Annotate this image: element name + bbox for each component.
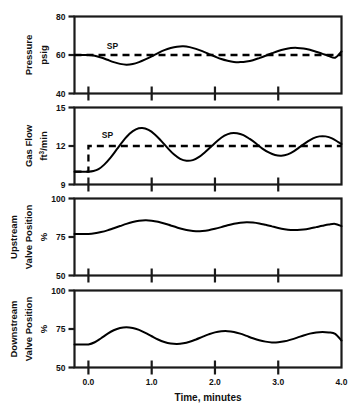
chart-figure-root: 406080SP91215SP50751005075100Pressurepsi… [0, 0, 357, 405]
ytick-label-pressure-60: 60 [56, 50, 66, 60]
ytick-label-pressure-40: 40 [56, 89, 66, 99]
xtick-label-1: 1.0 [146, 377, 158, 387]
ylabel-upstream-line2: Valve Position [23, 205, 34, 270]
xtick-label-2: 2.0 [209, 377, 221, 387]
ylabel-downstream-line2: Valve Position [23, 297, 34, 362]
ytick-label-upstream-75: 75 [56, 232, 66, 242]
ylabel-pressure-line1: Pressure [23, 35, 34, 76]
ytick-label-upstream-100: 100 [51, 194, 65, 204]
data-curve-upstream [75, 220, 342, 234]
ylabel-downstream-line3: % [38, 324, 49, 333]
ylabel-gasflow-line2: ft3/min [38, 131, 49, 161]
panel-gasflow: 91215SP [56, 103, 341, 192]
ylabel-pressure-line2: psig [38, 45, 49, 65]
ylabel-gasflow-line1: Gas Flow [23, 124, 34, 167]
ytick-label-gasflow-15: 15 [56, 103, 66, 113]
ytick-label-downstream-75: 75 [56, 324, 66, 334]
panel-frame-upstream [75, 199, 342, 276]
xtick-label-0: 0.0 [83, 377, 95, 387]
sp-annotation-gasflow: SP [102, 130, 114, 140]
ylabel-upstream-line3: % [38, 232, 49, 241]
panel-pressure: 406080SP [56, 12, 341, 101]
ylabel-downstream-line1: Downstream [8, 300, 19, 357]
ytick-label-downstream-50: 50 [56, 363, 66, 373]
xtick-label-4: 4.0 [336, 377, 348, 387]
ylabel-upstream-line1: Upstream [8, 215, 19, 259]
ytick-label-upstream-50: 50 [56, 271, 66, 281]
ytick-label-gasflow-12: 12 [56, 141, 66, 151]
xaxis-title: Time, minutes [174, 392, 241, 403]
data-curve-gasflow [75, 128, 342, 172]
ytick-label-pressure-80: 80 [56, 12, 66, 22]
data-curve-downstream [75, 327, 342, 344]
ytick-label-gasflow-9: 9 [61, 180, 66, 190]
sp-annotation-pressure: SP [107, 41, 119, 51]
xtick-label-3: 3.0 [272, 377, 284, 387]
panel-downstream: 5075100 [51, 286, 341, 375]
multi-panel-timeseries-chart: 406080SP91215SP50751005075100Pressurepsi… [0, 0, 357, 405]
panel-upstream: 5075100 [51, 194, 341, 283]
ytick-label-downstream-100: 100 [51, 286, 65, 296]
